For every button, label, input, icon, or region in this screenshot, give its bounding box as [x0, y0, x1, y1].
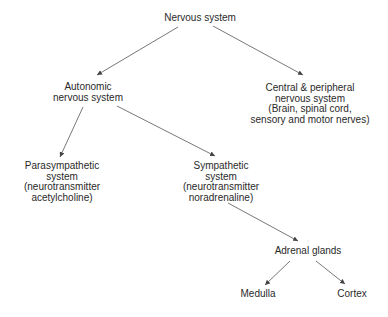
node-label: Central & peripheral [251, 83, 370, 94]
node-label: Medulla [240, 289, 275, 300]
node-label: Nervous system [164, 13, 236, 24]
nervous-system-diagram: Nervous system Autonomic nervous system … [0, 0, 388, 317]
node-label: Cortex [337, 289, 366, 300]
node-label: Autonomic [53, 82, 123, 93]
node-label: acetylcholine) [24, 193, 100, 204]
node-label: sensory and motor nerves) [251, 115, 370, 126]
edge-autonomic-to-parasympathetic [60, 107, 83, 157]
node-cortex: Cortex [337, 289, 366, 300]
node-central-peripheral: Central & peripheral nervous system (Bra… [251, 83, 370, 125]
node-label: Parasympathetic [24, 161, 100, 172]
edge-nervous-to-central [213, 26, 303, 75]
edge-nervous-to-autonomic [97, 27, 178, 75]
node-label: Sympathetic [183, 161, 259, 172]
node-parasympathetic: Parasympathetic system (neurotransmitter… [24, 161, 100, 203]
node-sympathetic: Sympathetic system (neurotransmitter nor… [183, 161, 259, 203]
edge-adrenal-to-cortex [316, 261, 345, 284]
node-label: noradrenaline) [183, 193, 259, 204]
edge-autonomic-to-sympathetic [117, 106, 215, 156]
edge-layer [0, 0, 388, 317]
edge-adrenal-to-medulla [265, 261, 290, 285]
node-adrenal-glands: Adrenal glands [275, 246, 342, 257]
node-label: nervous system [53, 93, 123, 104]
node-nervous-system: Nervous system [164, 13, 236, 24]
node-medulla: Medulla [240, 289, 275, 300]
node-label: Adrenal glands [275, 246, 342, 257]
node-autonomic: Autonomic nervous system [53, 82, 123, 103]
edge-sympathetic-to-adrenal [228, 203, 298, 241]
